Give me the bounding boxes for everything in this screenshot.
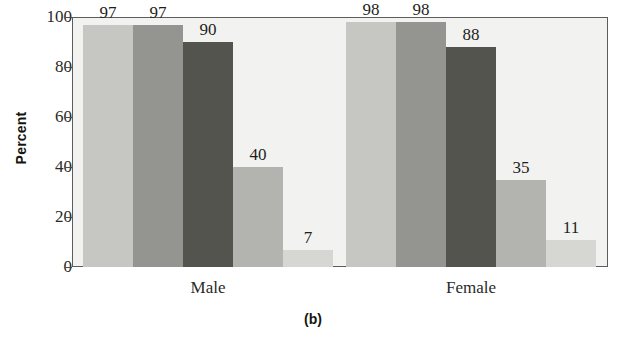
y-tick-mark: [66, 267, 72, 268]
bar: [396, 22, 446, 267]
x-axis-group-label: Male: [83, 279, 333, 296]
bar-value-label: 97: [83, 4, 133, 21]
plot-area: [72, 17, 608, 267]
y-axis-ticks: 020406080100: [16, 0, 72, 337]
figure-panel-b: Percent 020406080100 MaleFemale (b) 9797…: [0, 0, 626, 337]
bar: [283, 250, 333, 268]
bar-value-label: 98: [346, 1, 396, 18]
bar-value-label: 88: [446, 26, 496, 43]
bar: [346, 22, 396, 267]
bar: [83, 25, 133, 268]
bar: [496, 180, 546, 268]
bar-value-label: 40: [233, 146, 283, 163]
bar: [233, 167, 283, 267]
bar-value-label: 98: [396, 1, 446, 18]
bar: [446, 47, 496, 267]
x-axis-group-label: Female: [346, 279, 596, 296]
bar: [183, 42, 233, 267]
bar-value-label: 7: [283, 229, 333, 246]
bar-value-label: 35: [496, 159, 546, 176]
bar: [133, 25, 183, 268]
bar-value-label: 97: [133, 4, 183, 21]
bar-value-label: 11: [546, 219, 596, 236]
bar: [546, 240, 596, 268]
figure-caption: (b): [0, 311, 626, 327]
bar-value-label: 90: [183, 21, 233, 38]
